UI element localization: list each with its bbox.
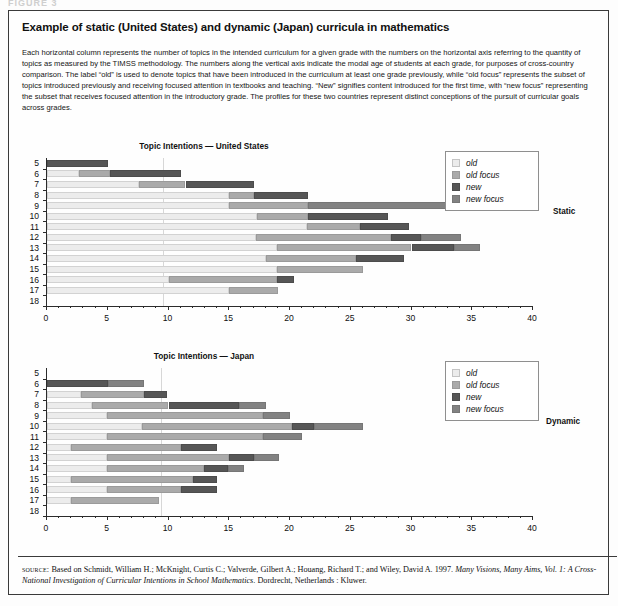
source-note: source: Based on Schmidt, William H.; Mc… <box>22 564 600 587</box>
x-tick-major <box>46 306 47 310</box>
x-tick-minor <box>155 306 156 308</box>
x-tick-minor <box>216 516 217 518</box>
bar-segment-oldfocus <box>71 476 193 483</box>
x-tick-major <box>107 306 108 310</box>
y-tick <box>43 274 46 275</box>
stacked-bar-row <box>47 276 533 283</box>
x-tick-minor <box>483 306 484 308</box>
x-tick-minor <box>155 516 156 518</box>
legend-item-new: new <box>452 181 532 192</box>
x-tick-minor <box>496 306 497 308</box>
y-axis-tick-label: 17 <box>29 495 39 505</box>
bar-segment-oldfocus <box>71 497 158 504</box>
y-axis-tick-label: 15 <box>29 264 39 274</box>
x-tick-minor <box>459 306 460 308</box>
x-tick-minor <box>338 516 339 518</box>
x-axis-tick-label: 10 <box>163 313 173 323</box>
x-axis-tick-label: 10 <box>163 523 173 533</box>
bar-segment-newfocus <box>263 412 290 419</box>
x-tick-minor <box>362 516 363 518</box>
y-tick <box>43 495 46 496</box>
bar-segment-old <box>47 454 107 461</box>
x-tick-minor <box>483 516 484 518</box>
x-tick-major <box>471 306 472 310</box>
x-tick-major <box>532 306 533 310</box>
legend-label: new <box>466 182 481 192</box>
bar-segment-old <box>47 465 107 472</box>
y-tick <box>43 474 46 475</box>
x-tick-minor <box>338 306 339 308</box>
y-tick <box>43 410 46 411</box>
x-tick-major <box>289 306 290 310</box>
y-axis-tick-label: 13 <box>29 243 39 253</box>
bar-segment-oldfocus <box>107 454 230 461</box>
x-tick-minor <box>325 306 326 308</box>
x-axis-tick-label: 40 <box>527 313 537 323</box>
x-tick-minor <box>277 516 278 518</box>
y-tick <box>43 431 46 432</box>
x-tick-minor <box>325 516 326 518</box>
y-tick <box>43 463 46 464</box>
x-tick-minor <box>143 306 144 308</box>
x-tick-minor <box>265 516 266 518</box>
stacked-bar-row <box>47 476 533 483</box>
y-tick <box>43 379 46 380</box>
bar-segment-old <box>47 192 229 199</box>
y-axis-tick-label: 14 <box>29 253 39 263</box>
x-tick-minor <box>240 516 241 518</box>
y-axis-tick-label: 18 <box>29 296 39 306</box>
bar-segment-newfocus <box>239 402 266 409</box>
legend-label: new focus <box>466 404 504 414</box>
legend-label: new <box>466 392 481 402</box>
bar-segment-newfocus <box>228 465 244 472</box>
x-tick-minor <box>180 516 181 518</box>
x-axis-tick-label: 30 <box>406 313 416 323</box>
bar-segment-oldfocus <box>169 276 277 283</box>
y-tick <box>43 221 46 222</box>
bar-segment-new <box>186 181 254 188</box>
bar-segment-old <box>47 255 266 262</box>
x-tick-major <box>411 516 412 520</box>
x-tick-minor <box>520 516 521 518</box>
y-axis-tick-label: 17 <box>29 285 39 295</box>
y-axis-tick-label: 8 <box>34 400 39 410</box>
bar-segment-new <box>292 423 314 430</box>
x-tick-minor <box>119 306 120 308</box>
x-tick-major <box>532 516 533 520</box>
x-tick-major <box>168 306 169 310</box>
stacked-bar-row <box>47 255 533 262</box>
y-axis-tick-label: 8 <box>34 190 39 200</box>
x-axis-tick-label: 35 <box>466 523 476 533</box>
bar-segment-old <box>47 433 107 440</box>
y-axis-tick-label: 12 <box>29 232 39 242</box>
stacked-bar-row <box>47 444 533 451</box>
y-tick <box>43 190 46 191</box>
x-tick-minor <box>119 516 120 518</box>
chart-title: Topic Intentions — Japan <box>9 351 399 361</box>
x-axis-tick-label: 15 <box>223 523 233 533</box>
bar-segment-oldfocus <box>79 170 111 177</box>
x-tick-minor <box>423 306 424 308</box>
bar-segment-oldfocus <box>107 465 204 472</box>
x-axis-tick-label: 25 <box>345 313 355 323</box>
y-tick <box>43 169 46 170</box>
bar-segment-old <box>47 476 71 483</box>
bar-segment-new <box>169 402 239 409</box>
bar-segment-new <box>277 276 294 283</box>
x-tick-minor <box>362 306 363 308</box>
x-tick-major <box>228 306 229 310</box>
stacked-bar-row <box>47 423 533 430</box>
x-tick-minor <box>192 306 193 308</box>
x-tick-major <box>228 516 229 520</box>
x-tick-minor <box>435 516 436 518</box>
bar-segment-old <box>47 402 92 409</box>
legend-item-newfocus: new focus <box>452 403 532 414</box>
stacked-bar-row <box>47 213 533 220</box>
legend-label: old <box>466 158 477 168</box>
y-tick <box>43 232 46 233</box>
legend-swatch-old-icon <box>452 369 460 377</box>
bar-segment-old <box>47 223 307 230</box>
source-text-1: Based on Schmidt, William H.; McKnight, … <box>49 565 455 574</box>
x-tick-minor <box>496 516 497 518</box>
x-axis-tick-label: 5 <box>104 523 109 533</box>
